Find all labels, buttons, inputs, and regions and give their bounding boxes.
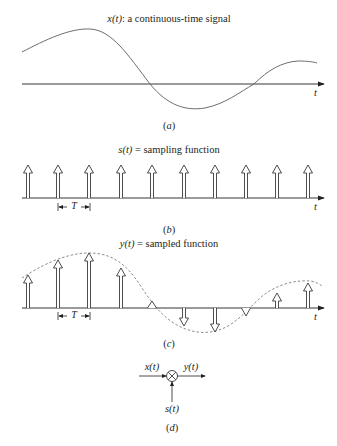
title-text: = sampling function: [132, 144, 219, 155]
period-label-c: T: [71, 309, 77, 320]
signal-variable: x(t): [107, 13, 122, 24]
caption-b: (b): [163, 224, 175, 235]
signal-variable: s(t): [118, 144, 132, 155]
caption-a: (a): [163, 120, 175, 131]
signal-variable: y(t): [120, 238, 135, 249]
axis-label-t-a: t: [314, 87, 317, 98]
output-label-y: y(t): [184, 361, 199, 372]
sampling-label-s: s(t): [165, 403, 179, 414]
sample-arrow: [304, 283, 313, 308]
caption-d: (d): [166, 422, 178, 433]
sampling-diagram: [0, 0, 337, 446]
sample-arrow: [24, 275, 33, 308]
impulse-arrow: [148, 165, 157, 198]
sample-arrow: [273, 293, 282, 308]
sample-arrow: [54, 260, 63, 308]
signal-curve-x: [22, 29, 317, 109]
sample-arrow: [211, 308, 220, 332]
axis-label-t-b: t: [314, 201, 317, 212]
title-text: = sampled function: [134, 238, 218, 249]
impulse-arrow: [304, 165, 313, 198]
period-label-b: T: [71, 200, 77, 211]
impulse-arrow: [117, 165, 126, 198]
axis-label-t-c: t: [314, 311, 317, 322]
impulse-arrow: [85, 165, 94, 198]
impulse-train: [24, 165, 313, 198]
sampled-impulses: [24, 253, 313, 332]
sample-arrow: [85, 253, 94, 308]
impulse-arrow: [24, 165, 33, 198]
panel-b-sampling-function: [22, 165, 324, 211]
impulse-arrow: [242, 165, 251, 198]
impulse-arrow: [211, 165, 220, 198]
sample-arrow: [180, 308, 189, 326]
panel-a-title: x(t): a continuous-time signal: [107, 13, 230, 24]
panel-c-title: y(t) = sampled function: [120, 238, 218, 249]
caption-c: (c): [163, 338, 175, 349]
sample-arrow: [117, 268, 126, 308]
title-text: : a continuous-time signal: [122, 13, 231, 24]
impulse-arrow: [54, 165, 63, 198]
impulse-arrow: [180, 165, 189, 198]
panel-b-title: s(t) = sampling function: [118, 144, 219, 155]
panel-a-continuous-signal: [22, 29, 324, 109]
impulse-arrow: [273, 165, 282, 198]
sample-arrow: [148, 301, 157, 308]
panel-c-sampled-function: [22, 253, 324, 332]
caption-letter: a: [166, 120, 171, 131]
input-label-x: x(t): [145, 361, 160, 372]
envelope-dashed-curve: [22, 253, 323, 332]
panel-d-multiplier-block: [139, 371, 205, 403]
